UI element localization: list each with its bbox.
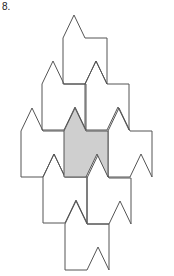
tile bbox=[21, 108, 65, 177]
tile bbox=[108, 108, 152, 177]
tessellation-figure bbox=[0, 0, 174, 276]
tile bbox=[63, 15, 107, 84]
tile bbox=[87, 155, 131, 224]
tile-group bbox=[21, 15, 152, 270]
